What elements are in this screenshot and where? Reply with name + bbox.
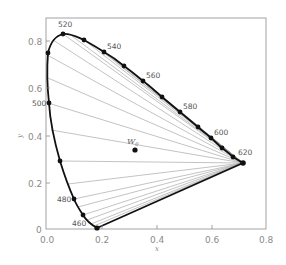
chromaticity-chart: W0 520 540 560 580 600 620 500 480 460 0… [0, 0, 286, 265]
x-tick-1: 0.2 [95, 235, 109, 245]
wavelength-label-540: 540 [107, 42, 122, 51]
y-tick-0: 0 [36, 225, 42, 235]
wavelength-label-580: 580 [183, 102, 198, 111]
y-axis-title: y [16, 133, 24, 139]
y-tick-3: 0.6 [28, 84, 43, 94]
x-tick-0: 0.0 [40, 235, 55, 245]
y-tick-2: 0.4 [28, 132, 43, 142]
x-tick-4: 0.8 [259, 235, 274, 245]
wavelength-label-480: 480 [57, 195, 72, 204]
y-tick-1: 0.2 [28, 179, 42, 189]
white-point-marker [132, 147, 137, 152]
wavelength-label-500: 500 [32, 99, 47, 108]
wavelength-label-520: 520 [58, 20, 73, 29]
y-tick-4: 0.8 [28, 37, 43, 47]
plot-frame [46, 18, 266, 229]
x-axis-ticks [102, 225, 212, 229]
white-point-label: W0 [127, 137, 139, 147]
x-tick-2: 0.4 [150, 235, 165, 245]
wavelength-label-460: 460 [72, 219, 87, 228]
x-axis-title: x [155, 245, 159, 253]
x-tick-3: 0.6 [205, 235, 220, 245]
wavelength-label-620: 620 [238, 148, 253, 157]
wavelength-label-560: 560 [146, 71, 161, 80]
wavelength-label-600: 600 [214, 128, 229, 137]
